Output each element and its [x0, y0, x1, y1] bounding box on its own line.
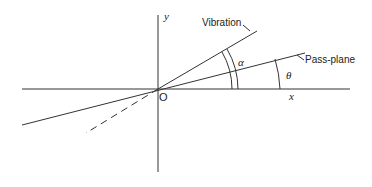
alpha-arc-inner — [222, 52, 232, 89]
origin-label: O — [159, 91, 168, 103]
alpha-label: α — [238, 56, 244, 68]
theta-label: θ — [286, 69, 292, 81]
polarization-diagram: y x O Vibration Pass-plane α θ — [0, 0, 372, 187]
alpha-arc-outer — [227, 49, 238, 89]
pass-plane-leader — [297, 55, 304, 60]
x-axis-label: x — [288, 90, 294, 102]
vibration-extension-dashed — [86, 89, 158, 133]
y-axis-label: y — [163, 10, 169, 22]
diagram-svg: y x O Vibration Pass-plane α θ — [0, 0, 372, 187]
pass-plane-label: Pass-plane — [305, 54, 355, 65]
vibration-leader — [243, 25, 250, 31]
theta-arc — [275, 59, 280, 89]
vibration-label: Vibration — [202, 17, 241, 28]
